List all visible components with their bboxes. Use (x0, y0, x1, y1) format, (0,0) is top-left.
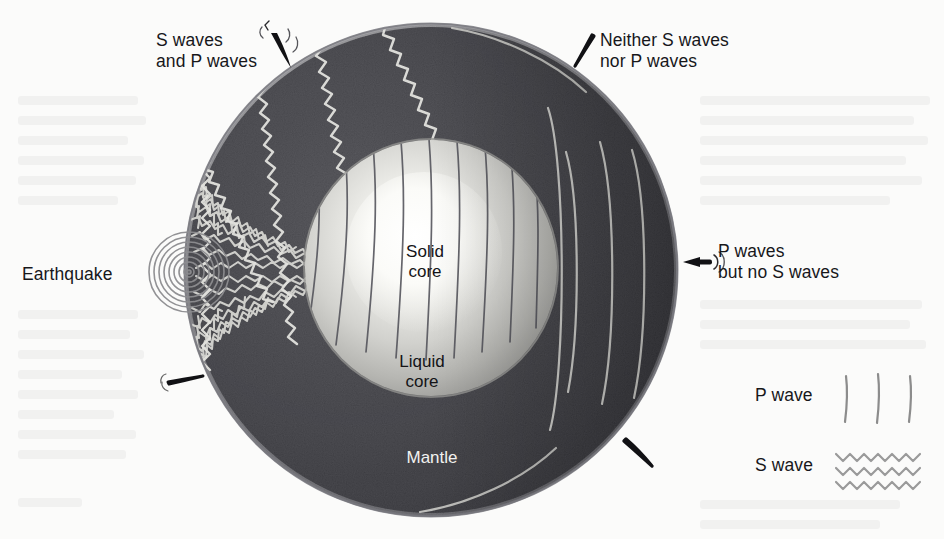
legend-label-p-wave: P wave (755, 385, 813, 406)
mantle-label: Mantle (376, 448, 488, 468)
callout-arrow-lower-right (624, 439, 652, 466)
liquid-core-label: Liquid core (366, 352, 478, 393)
figure-canvas: S waves and P waves Neither S waves nor … (0, 0, 944, 539)
callout-s-and-p-waves: S waves and P waves (156, 30, 257, 73)
callout-neither-s-nor-p: Neither S waves nor P waves (600, 30, 729, 73)
callout-arrow-s-and-p (260, 21, 298, 68)
callout-arrow-neither (575, 35, 594, 66)
callout-p-waves-only: P waves but no S waves (718, 241, 839, 284)
legend-label-s-wave: S wave (755, 455, 813, 476)
legend-s-wave-symbol (836, 454, 920, 489)
earthquake-label: Earthquake (22, 264, 113, 285)
callout-arrow-lower-left (161, 374, 203, 391)
legend-p-wave-symbol (845, 374, 911, 423)
solid-core-label: Solid core (369, 242, 481, 283)
